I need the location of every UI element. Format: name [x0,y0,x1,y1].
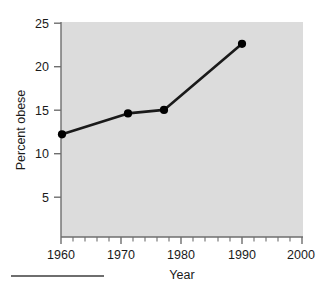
x-tick-label-1970: 1970 [107,248,135,262]
footer-divider-rule [11,275,104,277]
y-tick-label-20: 20 [35,60,49,74]
obesity-trend-line-chart: 25 20 15 10 5 1960 1970 1980 1990 2000 Y… [0,0,323,289]
data-point-marker [58,130,66,138]
y-tick-label-10: 10 [35,147,49,161]
y-tick-label-5: 5 [42,191,49,205]
y-axis-major-ticks [54,23,61,197]
data-point-marker [238,40,246,48]
data-point-marker [124,109,132,117]
plot-area-background [61,22,303,237]
figure-container: 25 20 15 10 5 1960 1970 1980 1990 2000 Y… [0,0,323,289]
x-axis-title: Year [169,268,194,282]
y-tick-label-25: 25 [35,17,49,31]
y-axis-title: Percent obese [14,90,28,171]
x-tick-label-2000: 2000 [287,248,315,262]
data-point-marker [160,106,168,114]
x-tick-label-1960: 1960 [47,248,75,262]
y-tick-label-15: 15 [35,104,49,118]
x-tick-label-1980: 1980 [167,248,195,262]
x-tick-label-1990: 1990 [228,248,256,262]
